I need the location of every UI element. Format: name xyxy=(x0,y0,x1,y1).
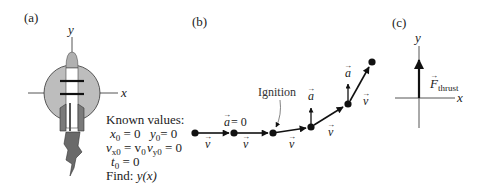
thrust-force-label: Fthrust xyxy=(429,76,459,93)
panel-c-label: (c) xyxy=(392,15,406,30)
find-statement: Find: y(x) xyxy=(106,168,157,183)
ignition-label: Ignition xyxy=(258,85,296,99)
panel-a: (a) y x Known values: x0 = 0 xyxy=(24,10,184,183)
position-dot xyxy=(191,129,198,136)
vector-arrow-icon: → xyxy=(288,132,296,141)
known-values-title: Known values: xyxy=(106,112,184,127)
vector-arrow-icon: → xyxy=(362,89,370,98)
vy0-eq: vy0 = 0 xyxy=(147,140,182,157)
position-dot xyxy=(269,129,276,136)
panel-b: (b) v → v → v → v → v → a xyxy=(191,14,375,151)
panel-b-label: (b) xyxy=(192,14,207,29)
vector-arrow-icon: → xyxy=(223,110,231,119)
panel-c: (c) y x → Fthrust xyxy=(392,15,463,128)
vector-arrow-icon: → xyxy=(242,132,250,141)
physics-figure: (a) y x Known values: x0 = 0 xyxy=(0,0,483,191)
ignition-pointer xyxy=(276,100,281,127)
position-dot xyxy=(368,58,375,65)
vector-arrow-icon: → xyxy=(204,132,212,141)
vector-arrow-icon: → xyxy=(307,84,315,93)
known-values: Known values: x0 = 0 y0= 0 vx0 = v0 vy0 … xyxy=(106,112,184,183)
accel-zero-value: = 0 xyxy=(231,115,247,129)
y-axis-label: y xyxy=(66,22,74,37)
panel-a-label: (a) xyxy=(24,10,38,25)
position-dot xyxy=(230,129,237,136)
x-axis-label: x xyxy=(120,85,127,100)
flame-icon xyxy=(64,132,82,176)
vector-arrow-icon: → xyxy=(327,120,335,129)
vector-arrow-icon: → xyxy=(344,61,352,70)
position-dot xyxy=(344,100,351,107)
y-axis-label: y xyxy=(413,30,421,45)
position-dot xyxy=(307,123,314,130)
